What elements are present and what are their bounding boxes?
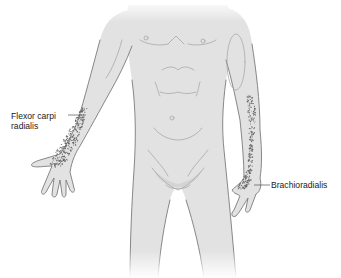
stipple-dot (69, 135, 70, 136)
stipple-dot (77, 122, 78, 123)
stipple-dot (64, 140, 65, 141)
stipple-dot (242, 187, 243, 188)
stipple-dot (51, 164, 53, 166)
stipple-dot (69, 153, 70, 154)
stipple-dot (252, 136, 253, 137)
stipple-dot (253, 121, 254, 122)
stipple-dot (254, 123, 255, 124)
stipple-dot (55, 152, 56, 153)
stipple-dot (83, 107, 84, 108)
stipple-dot (65, 152, 67, 154)
stipple-dot (249, 96, 250, 97)
stipple-dot (81, 117, 82, 118)
stipple-dot (251, 138, 252, 139)
stipple-dot (79, 132, 80, 133)
stipple-dot (58, 161, 59, 162)
stipple-dot (255, 112, 256, 113)
stipple-dot (76, 138, 77, 139)
brachioradialis-label-line1: Brachioradialis (271, 180, 327, 190)
stipple-dot (80, 127, 81, 128)
stipple-dot (250, 99, 251, 100)
stipple-dot (68, 145, 69, 146)
stipple-dot (250, 118, 251, 119)
stipple-dot (80, 129, 81, 130)
stipple-dot (249, 149, 250, 150)
stipple-dot (248, 97, 249, 98)
stipple-dot (245, 186, 246, 187)
right-arm (31, 10, 132, 197)
stipple-dot (60, 165, 61, 166)
stipple-dot (78, 134, 80, 136)
stipple-dot (69, 128, 70, 129)
stipple-dot (74, 140, 76, 142)
stipple-dot (252, 156, 254, 158)
stipple-dot (249, 173, 251, 175)
stipple-dot (250, 157, 251, 158)
stipple-dot (56, 155, 57, 156)
stipple-dot (59, 163, 60, 164)
stipple-dot (66, 145, 68, 147)
stipple-dot (73, 127, 74, 128)
stipple-dot (243, 188, 244, 189)
stipple-dot (252, 151, 253, 152)
stipple-dot (248, 179, 249, 180)
stipple-dot (79, 112, 80, 113)
flexor-carpi-radialis-label-line2: radialis (11, 121, 56, 131)
stipple-dot (251, 107, 252, 108)
stipple-dot (249, 151, 250, 152)
flexor-carpi-radialis-label: Flexor carpi radialis (11, 111, 56, 131)
stipple-dot (58, 164, 59, 165)
stipple-dot (79, 123, 80, 124)
flexor-carpi-radialis-label-line1: Flexor carpi (11, 111, 56, 121)
stipple-dot (75, 142, 76, 143)
stipple-dot (252, 127, 253, 128)
stipple-dot (79, 118, 80, 119)
stipple-dot (62, 148, 63, 149)
stipple-dot (72, 136, 73, 137)
stipple-dot (247, 182, 248, 183)
stipple-dot (252, 137, 253, 138)
stipple-dot (62, 154, 63, 155)
stipple-dot (255, 114, 256, 115)
stipple-dot (245, 176, 246, 177)
anatomy-figure (0, 0, 341, 278)
stipple-dot (249, 169, 250, 170)
stipple-dot (67, 140, 68, 141)
stipple-dot (82, 126, 83, 127)
stipple-dot (248, 119, 249, 120)
stipple-dot (70, 150, 71, 151)
stipple-dot (52, 161, 53, 162)
stipple-dot (250, 161, 251, 162)
stipple-dot (66, 143, 67, 144)
stipple-dot (250, 168, 251, 169)
stipple-dot (246, 184, 247, 185)
stipple-dot (251, 97, 252, 98)
stipple-dot (75, 120, 77, 122)
stipple-dot (252, 148, 253, 149)
stipple-dot (68, 133, 69, 134)
stipple-dot (54, 165, 56, 167)
stipple-dot (248, 95, 249, 96)
stipple-dot (246, 175, 247, 176)
stipple-dot (57, 151, 58, 152)
stipple-dot (253, 134, 254, 135)
stipple-dot (254, 127, 255, 128)
stipple-dot (58, 150, 59, 151)
stipple-dot (248, 160, 249, 161)
stipple-dot (66, 139, 67, 140)
stipple-dot (84, 109, 85, 110)
stipple-dot (50, 163, 51, 164)
stipple-dot (71, 131, 72, 132)
stipple-dot (77, 139, 78, 140)
stipple-dot (254, 132, 255, 133)
stipple-dot (252, 100, 253, 101)
stipple-dot (245, 177, 246, 178)
stipple-dot (76, 130, 77, 131)
stipple-dot (61, 149, 62, 150)
stipple-dot (67, 138, 68, 139)
stipple-dot (82, 108, 83, 109)
stipple-dot (72, 140, 73, 141)
stipple-dot (80, 119, 81, 120)
stipple-dot (248, 181, 249, 182)
stipple-dot (251, 154, 252, 155)
